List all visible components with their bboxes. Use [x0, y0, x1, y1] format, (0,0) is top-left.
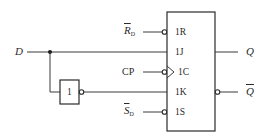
q-output-label: Q	[246, 46, 254, 57]
clock-bubble	[162, 70, 167, 75]
inverter-input-wire	[50, 52, 60, 92]
reset-bubble	[162, 30, 167, 35]
set-bubble	[162, 110, 167, 115]
inverter-output-bubble	[79, 90, 84, 95]
d-input-label: D	[15, 46, 23, 57]
q-bar-bubble	[215, 90, 220, 95]
inverter-label: 1	[67, 87, 72, 97]
pin-1r-label: 1R	[175, 27, 186, 37]
set-label-sub: D	[130, 111, 134, 117]
pin-1c-label: 1C	[178, 67, 189, 77]
clock-label: CP	[122, 67, 134, 77]
reset-label-sub: D	[131, 31, 135, 37]
reset-label: RD	[124, 25, 135, 40]
pin-1j-label: 1J	[175, 47, 183, 57]
pin-1k-label: 1K	[175, 87, 187, 97]
reset-label-main: R	[124, 24, 131, 36]
circuit-diagram	[0, 0, 270, 140]
set-label: SD	[124, 105, 134, 120]
q-bar-output-label: Q	[246, 86, 254, 97]
pin-1s-label: 1S	[175, 107, 185, 117]
